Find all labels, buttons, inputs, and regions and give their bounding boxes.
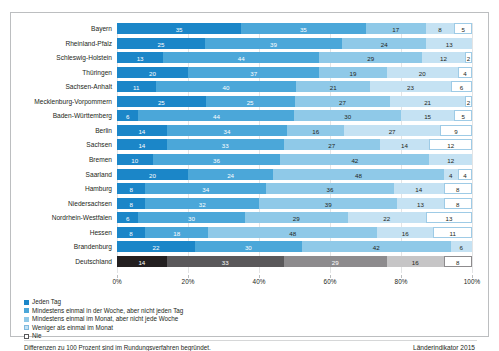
segment-value: 48 bbox=[208, 228, 377, 238]
legend-label: Mindestens einmal im Monat, aber nicht j… bbox=[32, 315, 178, 323]
segment-value: 42 bbox=[280, 155, 429, 165]
segment-value: 14 bbox=[394, 184, 444, 194]
cropped-header-bleed bbox=[0, 0, 499, 11]
bar-segment-s1: 33 bbox=[167, 139, 284, 150]
segment-value: 20 bbox=[117, 68, 188, 78]
segment-value: 14 bbox=[380, 140, 430, 150]
segment-value: 30 bbox=[138, 213, 245, 223]
bar-segment-s2: 29 bbox=[284, 256, 387, 267]
bar-segment-s1: 30 bbox=[195, 241, 302, 252]
segment-value: 16 bbox=[387, 257, 444, 267]
segment-value: 2 bbox=[466, 53, 471, 63]
segment-value: 32 bbox=[145, 199, 259, 209]
segment-value: 18 bbox=[145, 228, 208, 238]
bar-segment-s2: 16 bbox=[287, 125, 344, 136]
bar-segment-s2: 39 bbox=[259, 198, 397, 209]
bar-segment-s0: 13 bbox=[117, 52, 163, 63]
bar-segment-s4: 12 bbox=[429, 139, 472, 150]
segment-value: 16 bbox=[287, 126, 344, 136]
bar-segment-s2: 48 bbox=[208, 227, 377, 238]
bar-segment-s1: 35 bbox=[241, 23, 365, 34]
chart-row: Bayern35351785 bbox=[117, 23, 472, 34]
segment-value: 44 bbox=[163, 53, 319, 63]
bar-segment-s2: 42 bbox=[280, 154, 429, 165]
chart-row: Deutschland143329168 bbox=[117, 256, 472, 267]
bar-segment-s0: 35 bbox=[117, 23, 241, 34]
row-label-brandenburg: Brandenburg bbox=[0, 241, 112, 252]
bar-segment-s3: 4 bbox=[444, 169, 458, 180]
segment-value: 42 bbox=[302, 242, 451, 252]
bar-segment-s0: 11 bbox=[117, 81, 156, 92]
bar-segment-s4: 8 bbox=[444, 183, 472, 194]
segment-value: 14 bbox=[117, 257, 167, 267]
bar-segment-s0: 8 bbox=[117, 183, 145, 194]
segment-value: 12 bbox=[422, 53, 465, 63]
bar-segment-s2: 17 bbox=[366, 23, 426, 34]
bar-segment-s4: 2 bbox=[465, 96, 472, 107]
segment-value: 25 bbox=[206, 97, 295, 107]
chart-row: Sachsen1433271412 bbox=[117, 139, 472, 150]
chart-row: Rheinland-Pfalz25392413 bbox=[117, 38, 472, 49]
segment-value: 37 bbox=[188, 68, 319, 78]
bar-segment-s1: 25 bbox=[206, 96, 295, 107]
segment-value: 20 bbox=[387, 68, 458, 78]
segment-value: 39 bbox=[259, 199, 397, 209]
row-label-sachsen-anhalt: Sachsen-Anhalt bbox=[0, 81, 112, 92]
segment-value: 8 bbox=[117, 228, 145, 238]
segment-value: 13 bbox=[117, 53, 163, 63]
segment-value: 29 bbox=[284, 257, 387, 267]
bar-segment-s4: 13 bbox=[426, 212, 472, 223]
chart-container: Bayern35351785Rheinland-Pfalz25392413Sch… bbox=[10, 12, 489, 337]
footnote-text: Differenzen zu 100 Prozent sind im Rundu… bbox=[24, 344, 211, 351]
chart-row: Brandenburg2230426 bbox=[117, 241, 472, 252]
bar-segment-s3: 27 bbox=[344, 125, 440, 136]
bar-segment-s0: 10 bbox=[117, 154, 153, 165]
gridline bbox=[472, 23, 473, 273]
segment-value: 21 bbox=[296, 82, 370, 92]
axis-tick-label: 60% bbox=[324, 278, 337, 285]
source-label: Länderindikator 2015 bbox=[413, 344, 475, 351]
x-axis: 0%20%40%60%80%100% bbox=[117, 275, 472, 289]
segment-value: 11 bbox=[434, 228, 471, 238]
row-label-hessen: Hessen bbox=[0, 227, 112, 238]
segment-value: 8 bbox=[426, 24, 454, 34]
axis-tick-label: 80% bbox=[395, 278, 408, 285]
segment-value: 34 bbox=[167, 126, 288, 136]
axis-tick-label: 0% bbox=[112, 278, 121, 285]
segment-value: 8 bbox=[117, 184, 145, 194]
segment-value: 8 bbox=[445, 184, 471, 194]
bar-segment-s1: 18 bbox=[145, 227, 208, 238]
chart-row: Nordrhein-Westfalen630292213 bbox=[117, 212, 472, 223]
bar-segment-s2: 30 bbox=[294, 110, 401, 121]
plot-area: Bayern35351785Rheinland-Pfalz25392413Sch… bbox=[117, 23, 472, 273]
bar-segment-s2: 21 bbox=[296, 81, 370, 92]
bar-segment-s3: 13 bbox=[426, 38, 472, 49]
segment-value: 36 bbox=[266, 184, 394, 194]
segment-value: 11 bbox=[117, 82, 156, 92]
bar-segment-s0: 20 bbox=[117, 169, 188, 180]
row-label-rheinland-pfalz: Rheinland-Pfalz bbox=[0, 38, 112, 49]
axis-tick-label: 40% bbox=[253, 278, 266, 285]
segment-value: 23 bbox=[370, 82, 451, 92]
row-label-th-ringen: Thüringen bbox=[0, 67, 112, 78]
segment-value: 25 bbox=[117, 97, 206, 107]
chart-row: Hamburg83436148 bbox=[117, 183, 472, 194]
bar-segment-s4: 5 bbox=[454, 23, 472, 34]
bar-segment-s2: 42 bbox=[302, 241, 451, 252]
bar-segment-s1: 44 bbox=[163, 52, 319, 63]
segment-value: 29 bbox=[319, 53, 422, 63]
row-label-berlin: Berlin bbox=[0, 125, 112, 136]
bar-segment-s4: 8 bbox=[444, 198, 472, 209]
row-label-niedersachsen: Niedersachsen bbox=[0, 198, 112, 209]
segment-value: 9 bbox=[441, 126, 471, 136]
bar-segment-s3: 15 bbox=[401, 110, 454, 121]
bar-segment-s0: 25 bbox=[117, 96, 206, 107]
segment-value: 35 bbox=[241, 24, 365, 34]
legend-label: Jeden Tag bbox=[32, 298, 61, 306]
row-label-bremen: Bremen bbox=[0, 154, 112, 165]
segment-value: 14 bbox=[117, 140, 167, 150]
segment-value: 10 bbox=[117, 155, 153, 165]
chart-row: Baden-Württemberg64430155 bbox=[117, 110, 472, 121]
segment-value: 6 bbox=[117, 111, 138, 121]
segment-value: 24 bbox=[342, 39, 426, 49]
